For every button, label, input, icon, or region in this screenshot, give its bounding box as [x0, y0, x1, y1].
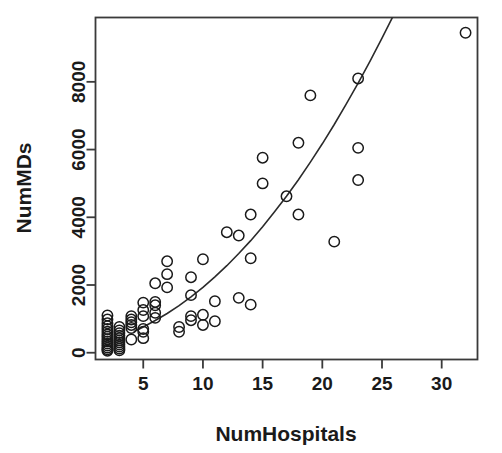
x-tick-label: 20	[312, 373, 333, 394]
y-axis-title: NumMDs	[12, 142, 35, 233]
x-tick-label: 15	[252, 373, 274, 394]
y-tick-label: 8000	[68, 61, 89, 103]
y-tick-label: 4000	[68, 196, 89, 238]
scatter-plot-figure: 02000400060008000 51015202530 NumHospita…	[0, 0, 502, 453]
x-tick-label: 30	[431, 373, 452, 394]
plot-canvas: 02000400060008000 51015202530 NumHospita…	[0, 0, 502, 453]
x-tick-label: 5	[138, 373, 149, 394]
y-tick-label: 6000	[68, 128, 89, 170]
x-tick-label: 10	[192, 373, 213, 394]
x-axis-title: NumHospitals	[215, 422, 356, 445]
x-tick-label: 25	[371, 373, 393, 394]
y-tick-label: 0	[68, 347, 89, 358]
y-tick-label: 2000	[68, 264, 89, 306]
